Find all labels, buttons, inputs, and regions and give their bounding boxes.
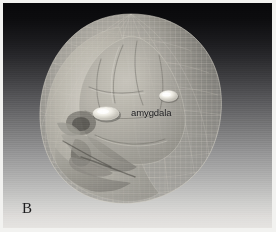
overlay-mesh <box>19 11 229 211</box>
head-3d-render <box>19 11 229 211</box>
head-geometry-svg <box>19 11 229 211</box>
amygdala-label: amygdala <box>131 107 171 118</box>
figure-panel-b: amygdala B <box>0 0 276 232</box>
rendering-canvas: amygdala B <box>3 3 272 228</box>
panel-letter-label: B <box>22 200 32 216</box>
